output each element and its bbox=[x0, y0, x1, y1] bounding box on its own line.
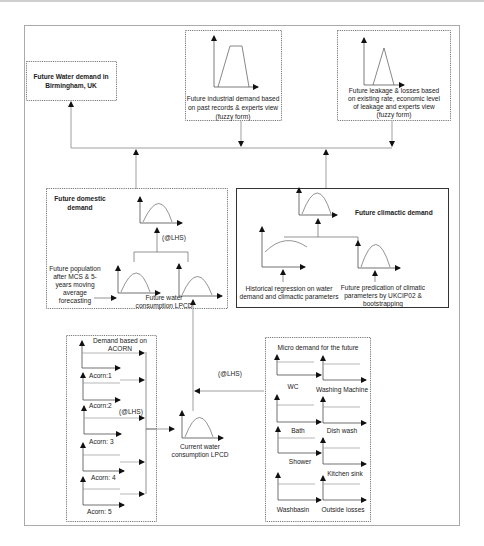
future-climate-curve-icon bbox=[361, 245, 390, 268]
leakage-losses-box: Future leakage & losses based on existin… bbox=[338, 31, 451, 121]
svg-text:after MCS & 5-: after MCS & 5- bbox=[53, 273, 97, 280]
svg-text:Bath: Bath bbox=[291, 427, 305, 434]
micro-demand-box: Micro demand for the future WC Bath Show… bbox=[266, 338, 371, 522]
water-demand-diagram: Future Water demand in Birmingham, UK Fu… bbox=[0, 0, 484, 546]
svg-text:Outside losses: Outside losses bbox=[321, 506, 365, 513]
svg-text:years moving: years moving bbox=[55, 281, 95, 289]
distribution-curve-icon bbox=[143, 204, 172, 223]
population-curve-icon bbox=[121, 273, 150, 292]
svg-text:Shower: Shower bbox=[289, 458, 312, 465]
svg-text:Demand based on: Demand based on bbox=[93, 337, 147, 344]
svg-text:consumption LPCD: consumption LPCD bbox=[172, 451, 229, 459]
svg-text:Micro demand for the future: Micro demand for the future bbox=[278, 344, 359, 351]
svg-text:Future population: Future population bbox=[49, 265, 101, 273]
climactic-demand-box: Future climactic demand Historical regre… bbox=[237, 188, 449, 308]
trapezoid-fuzzy-icon bbox=[218, 46, 249, 87]
middle-connectors bbox=[146, 300, 264, 429]
domestic-demand-box: Future domestic demand (@LHS) Future pop… bbox=[47, 189, 228, 311]
svg-text:Historical regression on water: Historical regression on water bbox=[246, 285, 334, 293]
svg-text:Birmingham, UK: Birmingham, UK bbox=[45, 82, 97, 90]
svg-text:Acorn:1: Acorn:1 bbox=[89, 372, 112, 379]
svg-text:(fuzzy form): (fuzzy form) bbox=[377, 111, 412, 119]
svg-text:Future water: Future water bbox=[145, 294, 183, 301]
svg-text:Washbasin: Washbasin bbox=[277, 506, 310, 513]
svg-text:Acorn: 5: Acorn: 5 bbox=[87, 508, 112, 515]
regression-curve-icon bbox=[265, 241, 307, 252]
triangle-fuzzy-icon bbox=[373, 48, 394, 85]
svg-text:Current water: Current water bbox=[180, 443, 221, 450]
svg-text:on past records & experts view: on past records & experts view bbox=[188, 104, 278, 112]
svg-text:of leakage and experts view: of leakage and experts view bbox=[353, 103, 435, 111]
svg-text:Future domestic: Future domestic bbox=[54, 195, 106, 202]
svg-text:demand and climactic parameter: demand and climactic parameters bbox=[240, 293, 340, 301]
svg-text:Dish wash: Dish wash bbox=[327, 427, 358, 434]
svg-text:Acorn: 3: Acorn: 3 bbox=[89, 438, 114, 445]
svg-text:consumption LPCD: consumption LPCD bbox=[136, 302, 193, 310]
acorn-box: Demand based on ACORN Acorn:1 Acorn:2 (@… bbox=[67, 336, 157, 522]
svg-text:Future Water demand in: Future Water demand in bbox=[33, 73, 108, 80]
climactic-curve-icon bbox=[302, 193, 331, 214]
svg-text:demand: demand bbox=[67, 204, 92, 211]
svg-text:on existing rate, economic lev: on existing rate, economic level bbox=[348, 95, 441, 103]
svg-text:Future climactic demand: Future climactic demand bbox=[355, 209, 433, 216]
current-consumption-curve-icon bbox=[185, 418, 213, 438]
svg-text:average: average bbox=[63, 289, 87, 297]
svg-text:(@LHS): (@LHS) bbox=[162, 234, 186, 242]
svg-text:bootstrapping: bootstrapping bbox=[363, 300, 403, 308]
svg-text:(@LHS): (@LHS) bbox=[119, 408, 143, 416]
industrial-demand-box: Future industrial demand based on past r… bbox=[186, 31, 282, 122]
svg-text:WC: WC bbox=[288, 383, 299, 390]
svg-text:Washing Machine: Washing Machine bbox=[316, 386, 368, 394]
svg-text:Kitchen sink: Kitchen sink bbox=[327, 470, 363, 477]
current-consumption-graph: Current water consumption LPCD bbox=[172, 411, 229, 459]
svg-text:ACORN: ACORN bbox=[108, 345, 132, 352]
svg-text:Acorn:2: Acorn:2 bbox=[89, 402, 112, 409]
svg-text:Acorn: 4: Acorn: 4 bbox=[91, 474, 116, 481]
svg-text:parameters by UKCIP02 &: parameters by UKCIP02 & bbox=[344, 292, 422, 300]
consumption-curve-icon bbox=[182, 277, 212, 296]
middle-lhs-label: (@LHS) bbox=[218, 370, 242, 378]
svg-text:(fuzzy form): (fuzzy form) bbox=[216, 113, 251, 121]
future-water-demand-box: Future Water demand in Birmingham, UK bbox=[27, 62, 117, 101]
svg-text:forecasting: forecasting bbox=[59, 297, 92, 305]
svg-text:Future predication of climatic: Future predication of climatic bbox=[341, 284, 426, 292]
svg-text:Future industrial demand based: Future industrial demand based bbox=[187, 95, 280, 102]
svg-text:Future leakage & losses based: Future leakage & losses based bbox=[349, 87, 440, 95]
